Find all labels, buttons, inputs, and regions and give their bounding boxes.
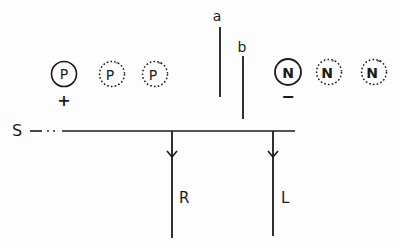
- marker-a-label: a: [213, 8, 222, 24]
- source-label: S: [12, 121, 22, 140]
- prime-mark: ′: [332, 59, 335, 70]
- node-N: N: [275, 59, 301, 85]
- node-N-double-prime: N ″: [362, 59, 387, 85]
- node-N-prime: N ′: [317, 59, 342, 85]
- node-P-prime: P ′: [100, 61, 125, 87]
- marker-b-label: b: [238, 39, 247, 55]
- positive-sign: +: [57, 91, 70, 110]
- node-P-double-prime: P ″: [143, 61, 168, 87]
- node-label: P: [149, 67, 157, 83]
- negative-sign: −: [281, 87, 294, 106]
- source-dot: [47, 130, 49, 132]
- double-prime-mark: ″: [377, 59, 382, 70]
- diagram-canvas: P + P ′ P ″ N − N ′ N ″ a: [0, 0, 400, 249]
- node-P: P: [52, 62, 77, 87]
- branch-L: L: [268, 131, 290, 236]
- source-dot: [53, 130, 55, 132]
- branch-label: R: [179, 189, 189, 207]
- double-prime-mark: ″: [158, 61, 162, 72]
- node-label: P: [106, 67, 114, 83]
- branch-label: L: [281, 189, 290, 207]
- node-label: N: [282, 65, 294, 81]
- branch-R: R: [167, 131, 189, 238]
- node-label: P: [60, 66, 68, 82]
